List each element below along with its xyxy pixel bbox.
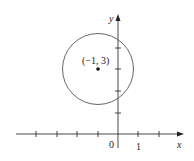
center-label: (−1, 3) <box>82 55 109 67</box>
y-axis-arrow-icon <box>116 14 121 21</box>
y-axis-label: y <box>108 13 114 24</box>
x-axis-label: x <box>176 139 182 150</box>
origin-label: 0 <box>109 139 114 150</box>
center-point <box>96 67 100 71</box>
x-tick-label-1: 1 <box>136 141 141 152</box>
coordinate-diagram: (−1, 3) y x 0 1 <box>0 0 194 161</box>
x-axis-arrow-icon <box>177 132 184 137</box>
